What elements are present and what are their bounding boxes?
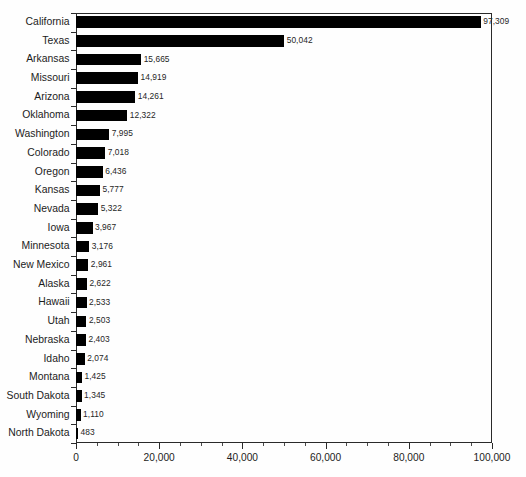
y-axis-tick	[71, 181, 76, 182]
x-axis-tick-label: 60,000	[310, 451, 341, 465]
x-axis-minor-tick	[118, 443, 119, 446]
bar	[76, 241, 89, 253]
x-axis-major-tick	[242, 443, 243, 449]
bar-chart-figure: California97,309Texas50,042Arkansas15,66…	[0, 0, 526, 477]
y-axis-tick	[71, 13, 76, 14]
bar	[76, 297, 87, 309]
bar-row: Texas50,042	[76, 32, 492, 51]
bar-value-label: 1,425	[84, 370, 105, 383]
bar-value-label: 7,995	[112, 127, 133, 140]
bar-row: Missouri14,919	[76, 69, 492, 88]
bar-row: Washington7,995	[76, 125, 492, 144]
bar-value-label: 2,403	[88, 333, 109, 346]
y-axis-tick	[71, 32, 76, 33]
bar	[76, 72, 138, 84]
x-axis-minor-tick	[201, 443, 202, 446]
bar	[76, 147, 105, 159]
bar	[76, 409, 81, 421]
y-axis-tick	[71, 125, 76, 126]
x-axis-minor-tick	[97, 443, 98, 446]
category-label: Kansas	[35, 183, 70, 197]
bar	[76, 316, 86, 328]
bar	[76, 203, 98, 215]
category-label: Colorado	[27, 146, 69, 160]
bar	[76, 353, 85, 365]
bar-value-label: 1,110	[83, 408, 104, 421]
x-axis-minor-tick	[222, 443, 223, 446]
bar-value-label: 7,018	[108, 146, 129, 159]
bar-row: Colorado7,018	[76, 144, 492, 163]
bar	[76, 16, 481, 28]
bar-row: Nebraska2,403	[76, 331, 492, 350]
y-axis-tick	[71, 237, 76, 238]
bar	[76, 278, 87, 290]
bar	[76, 372, 82, 384]
y-axis-tick	[71, 275, 76, 276]
bar-row: Idaho2,074	[76, 350, 492, 369]
category-label: Oklahoma	[22, 108, 69, 122]
bar-value-label: 3,967	[95, 221, 116, 234]
category-label: Minnesota	[22, 239, 70, 253]
bar-row: Montana1,425	[76, 368, 492, 387]
category-label: Texas	[42, 34, 69, 48]
category-label: Arkansas	[26, 52, 69, 66]
footer-note	[28, 468, 358, 477]
category-label: Utah	[48, 314, 70, 328]
x-axis-tick-label: 20,000	[144, 451, 175, 465]
category-label: Idaho	[43, 352, 69, 366]
bar-row: Kansas5,777	[76, 181, 492, 200]
category-label: New Mexico	[13, 258, 70, 272]
bar-row: North Dakota483	[76, 424, 492, 443]
bar-value-label: 3,176	[92, 240, 113, 253]
x-axis-minor-tick	[430, 443, 431, 446]
y-axis-tick	[71, 163, 76, 164]
y-axis-tick	[71, 406, 76, 407]
x-axis-major-tick	[76, 443, 77, 449]
x-axis-tick-label: 80,000	[393, 451, 424, 465]
bar	[76, 428, 78, 440]
bar	[76, 185, 100, 197]
bar-row: South Dakota1,345	[76, 387, 492, 406]
y-axis-tick	[71, 50, 76, 51]
x-axis-minor-tick	[284, 443, 285, 446]
category-label: Arizona	[34, 90, 69, 104]
x-axis-minor-tick	[346, 443, 347, 446]
bar	[76, 110, 127, 122]
bar-rows-container: California97,309Texas50,042Arkansas15,66…	[76, 13, 492, 443]
x-axis-minor-tick	[388, 443, 389, 446]
bar-value-label: 2,503	[89, 314, 110, 327]
category-label: Nebraska	[25, 333, 69, 347]
bar-row: Utah2,503	[76, 312, 492, 331]
x-axis-minor-tick	[471, 443, 472, 446]
x-axis-major-tick	[492, 443, 493, 449]
bar	[76, 91, 135, 103]
x-axis-minor-tick	[263, 443, 264, 446]
bar-row: Arkansas15,665	[76, 50, 492, 69]
bar-value-label: 14,261	[138, 90, 164, 103]
y-axis-tick	[71, 331, 76, 332]
category-label: Missouri	[31, 71, 70, 85]
bar-row: Oregon6,436	[76, 163, 492, 182]
bar-value-label: 1,345	[84, 389, 105, 402]
x-axis-minor-tick	[305, 443, 306, 446]
y-axis-tick	[71, 368, 76, 369]
y-axis-tick	[71, 88, 76, 89]
bar-value-label: 483	[81, 426, 95, 439]
category-label: Hawaii	[38, 295, 69, 309]
bar	[76, 129, 109, 141]
category-label: Nevada	[34, 202, 70, 216]
y-axis-tick	[71, 200, 76, 201]
bar-value-label: 97,309	[483, 15, 509, 28]
x-axis-major-tick	[159, 443, 160, 449]
y-axis-tick	[71, 69, 76, 70]
bar-value-label: 12,322	[130, 109, 156, 122]
x-axis-tick-label: 100,000	[474, 451, 511, 465]
bar	[76, 334, 86, 346]
bar-row: Iowa3,967	[76, 219, 492, 238]
y-axis-tick	[71, 293, 76, 294]
x-axis-major-tick	[409, 443, 410, 449]
bar-value-label: 2,961	[91, 258, 112, 271]
bar-row: Hawaii2,533	[76, 293, 492, 312]
bar	[76, 35, 284, 47]
category-label: Iowa	[48, 221, 70, 235]
